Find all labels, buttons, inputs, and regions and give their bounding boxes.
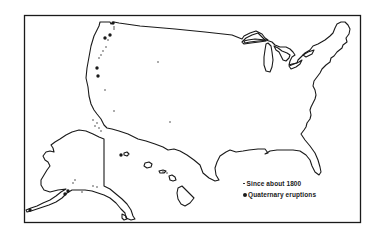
volcano-marker-since-1800	[166, 172, 167, 173]
hawaii-maui	[169, 175, 176, 181]
volcano-marker-quaternary	[96, 74, 99, 77]
volcano-marker-since-1800	[74, 179, 75, 180]
volcano-marker-since-1800	[105, 46, 106, 47]
legend-item-since-1800: Since about 1800	[243, 178, 316, 189]
legend-label: Quaternary eruptions	[248, 189, 316, 200]
volcano-marker-since-1800	[100, 130, 101, 131]
volcano-marker-since-1800	[113, 110, 114, 111]
volcano-marker-since-1800	[96, 186, 97, 187]
volcano-marker-quaternary	[63, 192, 66, 195]
volcano-marker-quaternary	[28, 208, 31, 211]
volcano-marker-since-1800	[113, 26, 114, 27]
volcano-marker-quaternary	[66, 189, 69, 192]
volcano-marker-since-1800	[92, 119, 93, 120]
lake-michigan	[264, 43, 273, 72]
hawaii-kauai	[124, 152, 129, 156]
volcano-marker-since-1800	[104, 89, 105, 90]
volcano-marker-since-1800	[100, 54, 101, 55]
volcano-marker-quaternary	[108, 33, 111, 36]
large-dot-icon	[243, 193, 247, 197]
hawaii-molokai	[159, 170, 166, 173]
legend-item-quaternary: Quaternary eruptions	[243, 189, 316, 200]
small-dot-icon	[243, 183, 245, 185]
hawaii-big-island	[177, 186, 194, 206]
volcano-marker-since-1800	[162, 171, 163, 172]
alaska-outline	[26, 130, 135, 220]
hawaii-oahu	[144, 162, 152, 168]
volcano-marker-since-1800	[98, 57, 99, 58]
volcano-marker-since-1800	[81, 191, 82, 192]
volcano-marker-since-1800	[94, 125, 95, 126]
volcano-marker-since-1800	[113, 28, 114, 29]
markers-quaternary	[28, 21, 122, 211]
volcano-marker-since-1800	[157, 61, 158, 62]
volcano-marker-quaternary	[95, 66, 98, 69]
volcano-marker-quaternary	[103, 36, 106, 39]
volcano-map	[0, 0, 382, 236]
contiguous-us-outline	[86, 22, 350, 181]
volcano-marker-quaternary	[111, 21, 114, 24]
volcano-marker-quaternary	[119, 153, 122, 156]
alaska-panhandle-island	[122, 214, 127, 220]
volcano-marker-since-1800	[92, 185, 93, 186]
volcano-marker-since-1800	[169, 121, 170, 122]
map-legend: Since about 1800 Quaternary eruptions	[243, 178, 316, 200]
legend-label: Since about 1800	[247, 178, 302, 189]
markers-since-1800	[72, 26, 170, 192]
volcano-marker-since-1800	[96, 122, 97, 123]
volcano-marker-since-1800	[98, 127, 99, 128]
volcano-marker-since-1800	[72, 182, 73, 183]
volcano-marker-since-1800	[102, 50, 103, 51]
volcano-marker-since-1800	[107, 39, 108, 40]
